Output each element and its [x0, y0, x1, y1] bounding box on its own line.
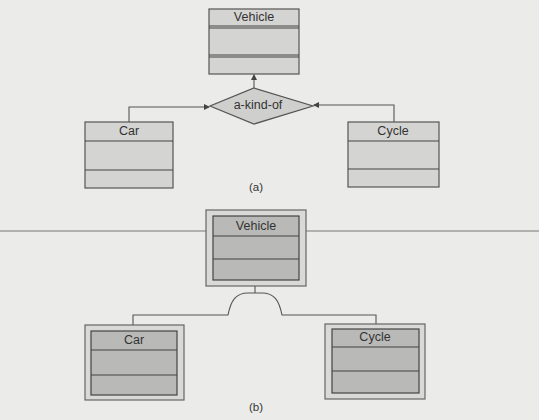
cycle-class-box-a: Cycle — [348, 122, 439, 187]
car-class-box-a: Car — [85, 122, 173, 188]
cycle-class-name: Cycle — [359, 330, 390, 344]
caption-b: (b) — [249, 401, 263, 413]
car-class-box-b: Car — [85, 325, 184, 400]
cycle-connector-a — [314, 105, 394, 122]
cycle-class-box-b: Cycle — [325, 324, 425, 399]
car-class-name: Car — [119, 124, 139, 138]
vehicle-class-name: Vehicle — [234, 10, 274, 24]
car-connector-a — [129, 107, 209, 122]
diagram-a: Vehicle a-kind-of Car Cycle (a) — [85, 9, 439, 193]
inheritance-diagram: Vehicle a-kind-of Car Cycle (a) — [0, 0, 539, 420]
vehicle-class-box-b: Vehicle — [206, 210, 306, 286]
caption-a: (a) — [249, 181, 263, 193]
a-kind-of-relationship: a-kind-of — [210, 88, 313, 124]
vehicle-class-box-a: Vehicle — [209, 9, 299, 74]
relationship-label: a-kind-of — [234, 98, 283, 112]
car-class-name: Car — [124, 333, 144, 347]
inheritance-arch-connector — [133, 286, 376, 325]
cycle-class-name: Cycle — [377, 124, 408, 138]
vehicle-class-name: Vehicle — [236, 219, 276, 233]
diagram-b: Vehicle Car Cycle (b) — [85, 210, 425, 413]
